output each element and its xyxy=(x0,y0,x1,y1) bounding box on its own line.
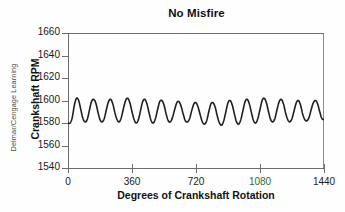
chart-figure: No Misfire Delmar/Cengage Learning Crank… xyxy=(0,0,345,212)
y-tick-1540: 1540 xyxy=(0,168,68,169)
y-tick-1580: 1580 xyxy=(0,123,68,124)
y-tick-label: 1660 xyxy=(38,26,60,37)
y-tick-label: 1640 xyxy=(38,49,60,60)
x-tick-label: 360 xyxy=(106,176,158,187)
y-tick-label: 1600 xyxy=(38,94,60,105)
x-axis-title: Degrees of Crankshaft Rotation xyxy=(60,189,332,201)
x-tick-label: 0 xyxy=(42,176,94,187)
y-tick-1640: 1640 xyxy=(0,56,68,57)
x-tick-label: 720 xyxy=(170,176,222,187)
y-tick-1660: 1660 xyxy=(0,33,68,34)
series-line-crankshaft-rpm xyxy=(68,98,324,125)
y-tick-label: 1580 xyxy=(38,116,60,127)
y-tick-label: 1620 xyxy=(38,71,60,82)
x-tick-label: 1440 xyxy=(298,176,345,187)
y-tick-1620: 1620 xyxy=(0,78,68,79)
y-tick-label: 1540 xyxy=(38,161,60,172)
chart-title: No Misfire xyxy=(68,7,325,19)
x-tick-mark xyxy=(324,164,325,173)
credit-line: Delmar/Cengage Learning xyxy=(9,48,18,168)
y-tick-label: 1560 xyxy=(38,139,60,150)
x-tick-label: 1080 xyxy=(234,176,286,187)
series-plot xyxy=(68,33,324,168)
y-tick-1560: 1560 xyxy=(0,146,68,147)
y-tick-1600: 1600 xyxy=(0,101,68,102)
